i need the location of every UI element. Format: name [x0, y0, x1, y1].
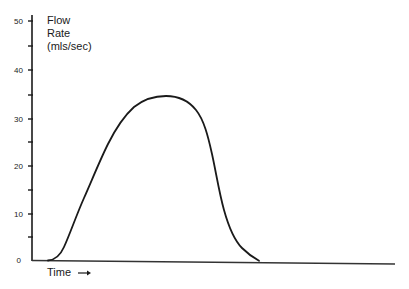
y-tick-label-30: 30: [14, 115, 23, 124]
flow-curve: [48, 96, 259, 261]
svg-text:Rate: Rate: [47, 27, 70, 39]
y-tick-label-50: 50: [14, 17, 23, 26]
y-tick-label-0: 0: [17, 256, 22, 265]
y-tick-label-20: 20: [14, 162, 23, 171]
y-tick-label-10: 10: [14, 210, 23, 219]
x-axis: [32, 261, 395, 265]
svg-text:Flow: Flow: [47, 14, 70, 26]
svg-text:(mls/sec): (mls/sec): [47, 40, 92, 52]
y-tick-label-40: 40: [14, 66, 23, 75]
flow-rate-chart: 50 40 30 20 10 0 Flow Rate (mls/sec) Tim…: [0, 0, 409, 289]
arrow-right-icon: [78, 271, 91, 276]
x-axis-label: Time: [47, 266, 71, 278]
y-tick-labels: 50 40 30 20 10 0: [14, 17, 23, 265]
y-axis-label: Flow Rate (mls/sec): [47, 14, 92, 52]
